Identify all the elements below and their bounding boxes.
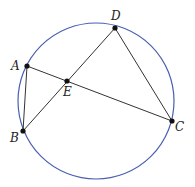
- segment-DC: [115, 28, 172, 121]
- label-A: A: [10, 59, 20, 73]
- geometry-diagram: A B C D E: [0, 0, 195, 187]
- segment-AB: [23, 66, 27, 131]
- label-D: D: [110, 9, 121, 23]
- point-E: [64, 78, 69, 83]
- point-D: [112, 25, 117, 30]
- segment-AC: [27, 66, 172, 121]
- label-B: B: [9, 131, 19, 145]
- label-E: E: [62, 85, 72, 99]
- label-C: C: [175, 120, 184, 134]
- point-C: [169, 118, 174, 123]
- point-B: [20, 128, 25, 133]
- circumcircle: [18, 23, 174, 179]
- point-A: [24, 63, 29, 68]
